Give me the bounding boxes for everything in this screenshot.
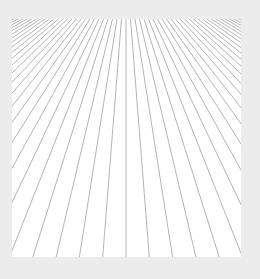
ray-line [126,19,241,257]
ray-line [103,19,126,257]
ray-line [126,19,196,257]
ray-line [126,19,149,257]
ray-line [12,19,126,257]
ray-line [56,19,126,257]
radiating-lines-graphic [12,19,241,257]
pattern-panel [12,19,241,257]
